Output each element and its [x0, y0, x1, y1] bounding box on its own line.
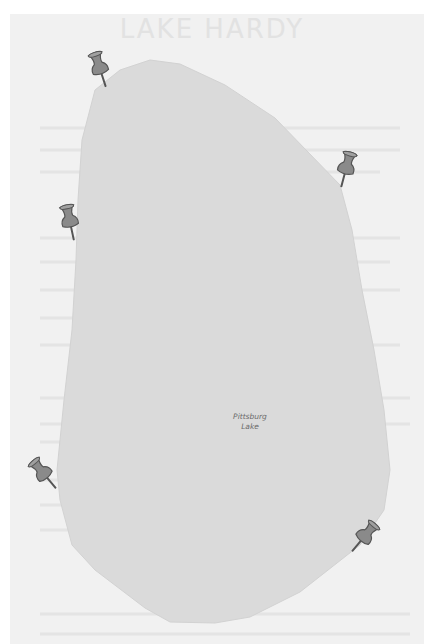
lake-label-line2: Lake	[222, 422, 278, 432]
lake-shape	[57, 60, 390, 623]
lake-label-line1: Pittsburg	[222, 412, 278, 422]
lake-label: Pittsburg Lake	[222, 412, 278, 432]
